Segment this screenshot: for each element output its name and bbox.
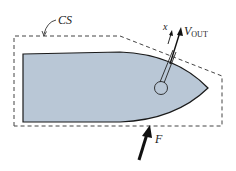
force-arrowhead (142, 125, 152, 138)
x-axis-arrowhead (169, 30, 173, 36)
x-axis-arrow-shaft (168, 34, 171, 44)
force-arrow-shaft (139, 134, 147, 160)
x-axis-label: x (163, 22, 167, 32)
control-volume-diagram: CS x VOUT F (0, 0, 236, 171)
velocity-out-arrowhead (177, 27, 183, 36)
velocity-out-arrow-shaft (170, 32, 180, 64)
velocity-subscript: OUT (191, 30, 207, 39)
control-surface-label: CS (58, 14, 72, 26)
velocity-out-label: VOUT (184, 25, 208, 39)
force-label: F (155, 133, 162, 145)
hull-body (23, 52, 208, 122)
